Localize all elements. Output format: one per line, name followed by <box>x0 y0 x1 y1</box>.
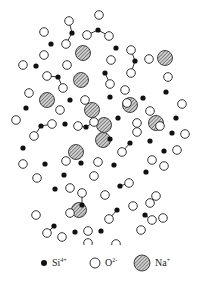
legend-item-na: Na+ <box>133 253 170 273</box>
silicon-ion <box>142 212 147 217</box>
silicon-ion <box>62 121 67 126</box>
oxygen-ion <box>25 89 34 98</box>
sodium-ion <box>69 145 84 160</box>
oxygen-ion <box>65 17 74 26</box>
oxygen-ion <box>90 172 99 181</box>
oxygen-ion <box>164 73 173 82</box>
sodium-ion <box>40 93 55 108</box>
silicon-ion <box>51 223 56 228</box>
oxygen-ion <box>62 40 71 49</box>
legend-item-o: O2- <box>89 253 117 273</box>
oxygen-ion <box>19 160 28 169</box>
silicon-ion <box>143 169 148 174</box>
silicon-ion <box>111 162 116 167</box>
oxygen-ion <box>66 184 75 193</box>
silicon-ion <box>113 45 118 50</box>
silicon-ion <box>78 160 83 165</box>
oxygen-ion <box>30 132 39 141</box>
silicon-ion <box>52 186 57 191</box>
oxygen-ion <box>48 120 57 129</box>
oxygen-ion <box>146 199 155 208</box>
silicon-ion <box>72 229 77 234</box>
legend-label-o: O2- <box>105 257 117 268</box>
oxygen-ion <box>84 227 93 236</box>
oxygen-ion <box>106 80 115 89</box>
silicon-ion <box>169 130 174 135</box>
legend-label-na: Na+ <box>155 257 170 268</box>
oxygen-ion <box>107 56 116 65</box>
oxygen-ion <box>152 192 161 201</box>
oxygen-ion <box>145 55 154 64</box>
oxygen-ion <box>58 233 67 242</box>
legend-item-si: Si4+ <box>40 253 67 273</box>
silicon-ion <box>140 95 145 100</box>
oxygen-ion <box>105 215 114 224</box>
oxygen-ion <box>43 72 52 81</box>
oxygen-ion <box>95 11 104 20</box>
oxygen-ion <box>160 162 169 171</box>
oxygen-ion <box>178 100 187 109</box>
oxygen-ion <box>137 226 146 235</box>
sodium-ion <box>97 118 112 133</box>
silicon-ion <box>114 207 119 212</box>
silicon-ion <box>67 97 72 102</box>
oxygen-ion <box>84 239 93 245</box>
silicon-ion <box>95 27 100 32</box>
oxygen-ion <box>133 119 142 128</box>
oxygen-ion <box>33 174 42 183</box>
silicon-ion <box>132 58 137 63</box>
oxygen-ion <box>148 156 157 165</box>
oxygen-ion <box>78 189 87 198</box>
silicon-ion <box>98 228 103 233</box>
oxygen-ion <box>105 32 114 41</box>
silicon-ion <box>20 145 25 150</box>
oxygen-ion <box>159 214 168 223</box>
oxygen-ion <box>94 158 103 167</box>
oxygen-ion <box>40 51 49 60</box>
si-dot-icon <box>40 259 48 267</box>
oxygen-ion <box>90 118 99 127</box>
silicon-ion <box>42 161 47 166</box>
silicon-ion <box>33 63 38 68</box>
silicon-ion <box>38 123 43 128</box>
silicon-ion <box>107 136 112 141</box>
oxygen-ion <box>66 209 75 218</box>
silicon-ion <box>69 30 74 35</box>
oxygen-ion <box>56 106 65 115</box>
oxygen-ion <box>62 157 71 166</box>
silicon-ion <box>48 41 53 46</box>
o-circle-icon <box>89 257 101 269</box>
sodium-ion <box>158 51 173 66</box>
silicon-ion <box>147 138 152 143</box>
oxygen-ion <box>156 122 165 131</box>
silicon-ion <box>61 172 66 177</box>
silicon-ion <box>102 70 107 75</box>
oxygen-ion <box>74 122 83 131</box>
oxygen-ion <box>43 229 52 238</box>
silicon-ion <box>163 89 168 94</box>
silicon-ion <box>23 105 28 110</box>
oxygen-ion <box>127 69 136 78</box>
silicon-ion <box>127 140 132 145</box>
silicon-ion <box>107 94 112 99</box>
silicon-ion <box>173 115 178 120</box>
silicon-ion <box>79 202 84 207</box>
silicate-network-diagram <box>0 0 202 245</box>
na-hatched-circle-icon <box>133 254 151 272</box>
legend: Si4+ O2- Na+ <box>0 253 202 273</box>
silicon-ion <box>55 74 60 79</box>
oxygen-ion <box>129 202 138 211</box>
oxygen-ion <box>133 128 142 137</box>
oxygen-ion <box>81 96 90 105</box>
oxygen-ion <box>125 179 134 188</box>
oxygen-ion <box>19 61 28 70</box>
silicon-ion <box>117 183 122 188</box>
oxygen-ion <box>59 84 68 93</box>
oxygen-ion <box>173 146 182 155</box>
oxygen-ion <box>40 28 49 37</box>
oxygen-ion <box>181 130 190 139</box>
oxygen-ion <box>32 211 41 220</box>
oxygen-ion <box>127 46 136 55</box>
legend-label-si: Si4+ <box>52 257 67 268</box>
silicon-ion <box>115 115 120 120</box>
